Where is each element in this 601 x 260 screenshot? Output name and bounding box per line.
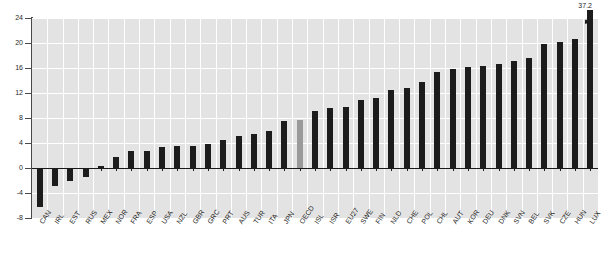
x-category-label: DEU <box>481 209 495 225</box>
y-tick-label: 24 <box>3 14 23 22</box>
bar-chart-figure: -8-404812162024 CANIRLESTRUSMEXNORFRAESP… <box>0 0 601 260</box>
x-category-label: GRC <box>206 208 221 225</box>
y-tick-mark <box>25 18 32 19</box>
x-category-label: NLD <box>389 210 403 225</box>
x-category-label: KOR <box>466 209 480 225</box>
x-category-label: AUT <box>451 210 465 225</box>
x-category-label: ISL <box>313 212 325 225</box>
x-category-label: FRA <box>129 210 143 225</box>
x-category-label: ITA <box>267 213 279 226</box>
y-axis-tick-labels: -8-404812162024 <box>0 0 23 260</box>
x-category-label: CHE <box>405 209 419 225</box>
y-tick-mark <box>25 143 32 144</box>
x-category-label: CHL <box>435 210 449 225</box>
x-category-label: DNK <box>497 209 511 225</box>
x-category-label: SVN <box>512 209 526 225</box>
x-category-label: ESP <box>145 210 159 225</box>
x-category-label: NZL <box>175 210 188 225</box>
x-category-label: EST <box>68 210 82 225</box>
y-tick-label: 0 <box>3 164 23 172</box>
y-tick-mark <box>25 168 32 169</box>
x-category-label: FIN <box>374 212 386 225</box>
x-category-label: POL <box>420 210 434 225</box>
x-category-label: JPN <box>282 210 295 225</box>
value-annotation-label: 37.2 <box>578 2 592 9</box>
x-category-label: HUN <box>573 209 587 225</box>
x-category-label: RUS <box>84 209 98 225</box>
x-category-label: CAN <box>38 209 52 225</box>
x-category-label: NOR <box>114 208 129 225</box>
y-tick-mark <box>25 218 32 219</box>
x-category-label: BEL <box>527 210 540 225</box>
x-category-label: IRL <box>53 212 65 225</box>
x-category-label: SVK <box>542 210 556 225</box>
x-axis-category-labels: CANIRLESTRUSMEXNORFRAESPUSANZLGBRGRCPRTA… <box>32 0 598 260</box>
x-category-label: SWE <box>359 208 374 225</box>
y-tick-label: 20 <box>3 39 23 47</box>
x-category-label: EU27 <box>344 207 360 225</box>
y-tick-label: -8 <box>3 214 23 222</box>
y-tick-mark <box>25 118 32 119</box>
x-category-label: CZE <box>558 210 572 225</box>
x-category-label: PRT <box>221 210 235 225</box>
y-tick-label: 12 <box>3 89 23 97</box>
x-category-label: GBR <box>191 209 205 225</box>
y-tick-mark <box>25 93 32 94</box>
y-tick-mark <box>25 68 32 69</box>
y-tick-mark <box>25 193 32 194</box>
x-category-label: MEX <box>99 209 113 225</box>
x-category-label: OECD <box>298 204 315 225</box>
x-category-label: ISR <box>328 211 340 225</box>
y-tick-label: -4 <box>3 189 23 197</box>
x-category-label: USA <box>160 209 174 225</box>
y-tick-mark <box>25 43 32 44</box>
value-annotation-arrow <box>581 10 595 26</box>
y-tick-label: 16 <box>3 64 23 72</box>
y-tick-label: 4 <box>3 139 23 147</box>
x-category-label: LUX <box>588 210 601 225</box>
x-category-label: TUR <box>252 209 266 225</box>
x-category-label: AUS <box>237 209 251 225</box>
y-tick-label: 8 <box>3 114 23 122</box>
